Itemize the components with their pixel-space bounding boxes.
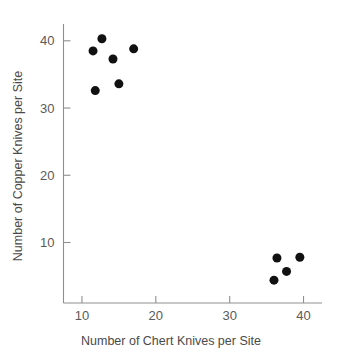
data-point: [97, 34, 106, 43]
x-tick-label: 20: [149, 308, 163, 323]
scatter-plot-canvas: 10203040 10203040 Number of Chert Knives…: [0, 0, 342, 354]
data-point: [282, 267, 291, 276]
y-tick-label: 30: [40, 101, 54, 116]
data-point: [89, 46, 98, 55]
y-tick-label: 40: [40, 33, 54, 48]
y-axis-title: Number of Copper Knives per Site: [11, 71, 25, 261]
y-tick-label: 20: [40, 168, 54, 183]
x-tick-label: 40: [296, 308, 310, 323]
x-tick-label: 10: [75, 308, 89, 323]
data-point: [91, 86, 100, 95]
data-point: [108, 54, 117, 63]
scatter-plot-figure: 10203040 10203040 Number of Chert Knives…: [0, 0, 342, 354]
data-point: [129, 44, 138, 53]
data-point: [295, 253, 304, 262]
data-point: [114, 79, 123, 88]
y-tick-label: 10: [40, 235, 54, 250]
data-point: [272, 253, 281, 262]
x-tick-label: 30: [222, 308, 236, 323]
data-point: [269, 276, 278, 285]
x-axis-title: Number of Chert Knives per Site: [81, 334, 261, 348]
